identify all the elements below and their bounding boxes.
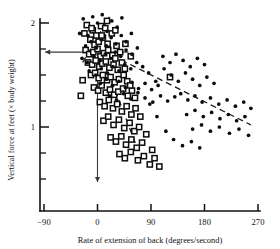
- data-point-filled-dot: [209, 96, 213, 100]
- data-point-filled-dot: [129, 67, 133, 71]
- data-point-filled-dot: [212, 81, 216, 85]
- data-point-filled-dot: [99, 81, 103, 85]
- data-point-filled-dot: [115, 25, 119, 29]
- data-point-open-square: [152, 156, 157, 161]
- data-point-open-square: [100, 72, 105, 77]
- data-point-filled-dot: [122, 92, 126, 96]
- data-point-open-square: [108, 74, 113, 79]
- data-point-open-square: [80, 78, 85, 83]
- data-point-filled-dot: [166, 99, 170, 103]
- data-point-filled-dot: [147, 71, 151, 75]
- data-point-filled-dot: [111, 65, 115, 69]
- data-point-filled-dot: [161, 54, 165, 58]
- data-point-filled-dot: [151, 100, 155, 104]
- data-point-filled-dot: [225, 98, 229, 102]
- data-point-filled-dot: [120, 16, 124, 20]
- data-point-filled-dot: [94, 46, 98, 50]
- data-point-filled-dot: [209, 129, 213, 133]
- data-point-filled-dot: [218, 125, 222, 129]
- data-point-filled-dot: [78, 32, 82, 36]
- data-point-filled-dot: [205, 75, 209, 79]
- data-point-filled-dot: [235, 119, 239, 123]
- data-point-filled-dot: [80, 57, 84, 61]
- data-point-open-square: [102, 104, 107, 109]
- data-point-filled-dot: [164, 129, 168, 133]
- data-point-open-square: [106, 114, 111, 119]
- x-axis-label: Rate of extension of back (degrees/secon…: [78, 236, 223, 245]
- data-point-filled-dot: [169, 73, 173, 77]
- plot-canvas: −9009018027021 Rate of extension of back…: [0, 0, 280, 249]
- data-point-filled-dot: [173, 95, 177, 99]
- data-point-filled-dot: [92, 54, 96, 58]
- data-point-open-square: [113, 139, 118, 144]
- data-point-filled-dot: [184, 71, 188, 75]
- data-point-open-square: [135, 158, 140, 163]
- data-point-open-square: [106, 47, 111, 52]
- data-point-filled-dot: [124, 86, 128, 90]
- data-point-filled-dot: [105, 44, 109, 48]
- data-point-filled-dot: [136, 91, 140, 95]
- data-point-open-square: [117, 50, 122, 55]
- data-point-open-square: [123, 142, 128, 147]
- data-point-filled-dot: [201, 115, 205, 119]
- scatter-plot-figure: −9009018027021 Rate of extension of back…: [0, 0, 280, 249]
- data-point-open-square: [128, 149, 133, 154]
- data-point-filled-dot: [196, 57, 200, 61]
- data-point-filled-dot: [141, 65, 145, 69]
- data-point-filled-dot: [156, 84, 160, 88]
- x-tick-label: 270: [252, 217, 265, 227]
- data-point-filled-dot: [247, 133, 251, 137]
- data-point-open-square: [144, 132, 149, 137]
- data-point-filled-dot: [105, 77, 109, 81]
- data-point-filled-dot: [86, 34, 90, 38]
- data-point-open-square: [95, 88, 100, 93]
- data-point-filled-dot: [190, 140, 194, 144]
- data-point-filled-dot: [129, 97, 133, 101]
- vertical-arrow-to-xaxis-head: [95, 177, 100, 182]
- data-point-filled-dot: [109, 36, 113, 40]
- y-axis-ticks: [40, 23, 49, 179]
- data-point-filled-dot: [117, 79, 121, 83]
- data-point-open-square: [122, 125, 127, 130]
- data-point-filled-dot: [89, 40, 93, 44]
- data-point-filled-dot: [172, 138, 176, 142]
- data-point-filled-dot: [117, 69, 121, 73]
- data-point-open-square: [132, 95, 137, 100]
- data-point-filled-dot: [191, 127, 195, 131]
- x-tick-label: −90: [37, 217, 50, 227]
- data-point-filled-dot: [87, 69, 91, 73]
- data-point-open-square: [119, 109, 124, 114]
- data-point-filled-dot: [155, 115, 159, 119]
- data-point-open-square: [122, 156, 127, 161]
- data-point-open-square: [157, 164, 162, 169]
- data-point-filled-dot: [113, 50, 117, 54]
- data-point-open-square: [129, 137, 134, 142]
- data-point-filled-dot: [135, 61, 139, 65]
- data-point-open-square: [115, 102, 120, 107]
- data-point-filled-dot: [198, 146, 202, 150]
- data-point-filled-dot: [130, 80, 134, 84]
- data-point-filled-dot: [159, 94, 163, 98]
- data-point-open-square: [99, 33, 104, 38]
- data-point-open-square: [93, 58, 98, 63]
- data-point-filled-dot: [96, 21, 100, 25]
- data-point-open-square: [134, 145, 139, 150]
- data-point-open-square: [141, 154, 146, 159]
- data-point-open-square: [103, 59, 108, 64]
- data-point-filled-dot: [200, 100, 204, 104]
- data-point-filled-dot: [109, 57, 113, 61]
- y-axis-label: Vertical force at feet (× body weight): [7, 59, 16, 181]
- data-point-filled-dot: [99, 67, 103, 71]
- data-point-open-square: [116, 117, 121, 122]
- data-point-filled-dot: [103, 52, 107, 56]
- x-tick-label: 0: [95, 217, 99, 227]
- data-point-filled-dot: [237, 127, 241, 131]
- data-point-filled-dot: [181, 59, 185, 63]
- data-point-filled-dot: [210, 111, 214, 115]
- data-point-open-square: [119, 134, 124, 139]
- data-point-open-square: [78, 93, 83, 98]
- data-point-open-square: [127, 120, 132, 125]
- data-point-filled-dot: [218, 117, 222, 121]
- data-point-filled-dot: [243, 115, 247, 119]
- data-point-filled-dot: [123, 63, 127, 67]
